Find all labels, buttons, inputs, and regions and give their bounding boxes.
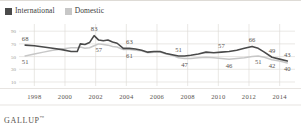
y-axis-tick-label: 30 xyxy=(11,67,17,72)
legend-swatch-domestic xyxy=(65,8,72,15)
data-point-label-domestic: 61 xyxy=(126,52,133,59)
plot-area: 9070503010199820002002200420062008201020… xyxy=(0,20,301,108)
y-axis-tick-label: 90 xyxy=(11,29,17,34)
x-axis-tick-label: 1998 xyxy=(27,93,42,100)
data-point-label-international: 83 xyxy=(91,25,98,32)
chart-legend: International Domestic xyxy=(5,4,104,18)
x-axis-tick-label: 2010 xyxy=(211,93,226,100)
data-point-label-international: 68 xyxy=(22,35,29,42)
data-point-label-domestic: 40 xyxy=(284,65,291,72)
x-axis-tick-label: 2002 xyxy=(88,93,102,100)
legend-item-domestic: Domestic xyxy=(65,7,105,15)
data-point-label-international: 51 xyxy=(175,46,182,53)
legend-label-international: International xyxy=(15,7,55,15)
y-axis-tick-label: 10 xyxy=(11,80,17,85)
data-point-label-international: 63 xyxy=(126,38,133,45)
x-axis-tick-label: 2014 xyxy=(272,93,287,100)
line-chart-svg: 9070503010199820002002200420062008201020… xyxy=(0,20,301,108)
legend-swatch-international xyxy=(5,8,12,15)
data-point-label-domestic: 51 xyxy=(22,58,29,65)
data-point-label-international: 57 xyxy=(218,42,225,49)
brand-name: GALLUP xyxy=(4,116,40,125)
legend-item-international: International xyxy=(5,7,55,15)
x-axis-tick-label: 2012 xyxy=(242,93,256,100)
data-point-label-domestic: 51 xyxy=(255,58,262,65)
y-axis-tick-label: 50 xyxy=(11,55,17,60)
data-point-label-domestic: 57 xyxy=(95,46,102,53)
trademark-icon: ™ xyxy=(40,115,45,120)
legend-label-domestic: Domestic xyxy=(75,7,105,15)
y-axis-tick-label: 70 xyxy=(11,42,17,47)
top-divider xyxy=(0,0,301,1)
x-axis-tick-label: 2004 xyxy=(119,93,134,100)
data-point-label-international: 49 xyxy=(269,47,276,54)
data-point-label-international: 43 xyxy=(284,51,291,58)
x-axis-tick-label: 2000 xyxy=(58,93,73,100)
gallup-logo: GALLUP™ xyxy=(4,115,45,125)
x-axis-tick-label: 2008 xyxy=(180,93,195,100)
data-point-label-domestic: 47 xyxy=(181,61,188,68)
x-axis-tick-label: 2006 xyxy=(150,93,165,100)
data-point-label-domestic: 46 xyxy=(226,62,233,69)
data-point-label-domestic: 42 xyxy=(269,62,276,69)
chart-container: International Domestic 90705030101998200… xyxy=(0,0,301,132)
data-point-label-international: 66 xyxy=(249,36,256,43)
